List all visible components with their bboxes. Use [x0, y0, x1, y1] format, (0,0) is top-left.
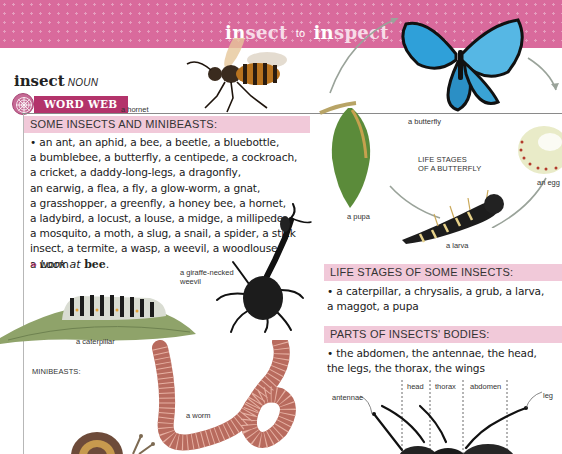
cross-reference-arrow-icon: »: [30, 258, 37, 271]
cross-reference-link-bee[interactable]: bee: [84, 258, 106, 271]
section-heading-insects-minibeasts: SOME INSECTS AND MINIBEASTS:: [24, 116, 310, 133]
egg-illustration: [510, 122, 562, 184]
label-antennae: antennae: [332, 393, 363, 402]
section-heading-life-stages: LIFE STAGES OF SOME INSECTS:: [324, 264, 562, 281]
caption-minibeasts: MINIBEASTS:: [32, 367, 81, 376]
cross-reference-suffix: .: [106, 258, 110, 271]
cross-reference-prefix: Look at: [40, 258, 81, 271]
pupa-illustration: [326, 108, 376, 212]
section-heading-body-parts: PARTS OF INSECTS' BODIES:: [324, 326, 562, 343]
caption-egg: an egg: [537, 178, 560, 187]
caption-weevil-line1: a giraffe-necked: [180, 268, 234, 277]
insect-body-diagram: [330, 380, 562, 454]
list-line: an earwig, a flea, a fly, a glow-worm, a…: [30, 181, 320, 196]
list-line: • a caterpillar, a chrysalis, a grub, a …: [327, 284, 562, 299]
list-line: • the abdomen, the antennae, the head,: [327, 346, 562, 361]
list-line: the legs, the thorax, the wings: [327, 361, 562, 376]
life-cycle-title-line2: OF A BUTTERFLY: [418, 164, 481, 173]
list-line: a bumblebee, a butterfly, a centipede, a…: [30, 150, 320, 165]
word-web-badge: WORD WEB: [34, 96, 128, 113]
caption-hornet: a hornet: [121, 105, 149, 114]
caption-worm: a worm: [186, 411, 211, 420]
caption-caterpillar: a caterpillar: [76, 337, 115, 346]
caption-pupa: a pupa: [347, 212, 370, 221]
label-leg: leg: [543, 391, 553, 400]
spider-web-icon: [12, 93, 34, 115]
hornet-illustration: [175, 38, 305, 122]
life-cycle-title-line1: LIFE STAGES: [418, 155, 481, 164]
body-parts-list: • the abdomen, the antennae, the head, t…: [327, 346, 562, 376]
list-line: a maggot, a pupa: [327, 299, 562, 314]
caption-larva: a larva: [446, 241, 469, 250]
cross-reference: »Look at bee.: [30, 258, 109, 271]
label-head: head: [407, 382, 424, 391]
list-line: • an ant, an aphid, a bee, a beetle, a b…: [30, 135, 320, 150]
snail-illustration: [55, 430, 165, 454]
entry-headword: insectNOUN: [14, 72, 98, 90]
label-thorax: thorax: [435, 382, 456, 391]
part-of-speech: NOUN: [68, 77, 99, 88]
headword-text: insect: [14, 72, 65, 90]
life-stages-list: • a caterpillar, a chrysalis, a grub, a …: [327, 284, 562, 314]
label-abdomen: abdomen: [470, 382, 501, 391]
life-cycle-title: LIFE STAGES OF A BUTTERFLY: [418, 155, 481, 173]
list-line: a cricket, a daddy-long-legs, a dragonfl…: [30, 165, 320, 180]
